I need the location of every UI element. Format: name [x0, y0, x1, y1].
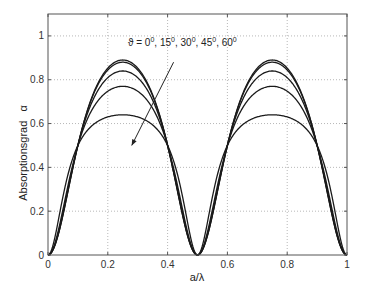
y-tick-label: 1	[38, 30, 44, 41]
y-tick-label: 0	[38, 250, 44, 261]
x-tick-label: 0.6	[220, 259, 234, 270]
x-tick-label: 0.8	[280, 259, 294, 270]
y-tick-label: 0.2	[30, 206, 44, 217]
y-tick-label: 0.4	[30, 162, 44, 173]
x-tick-label: 1	[344, 259, 350, 270]
x-axis-label: a/λ	[190, 271, 205, 283]
y-tick-label: 0.6	[30, 118, 44, 129]
x-tick-label: 0.4	[161, 259, 175, 270]
x-tick-label: 0.2	[101, 259, 115, 270]
angle-annotation: ϑ = 00, 150, 300, 450, 600	[128, 36, 237, 48]
x-tick-label: 0	[45, 259, 51, 270]
y-axis-label: Absorptionsgrad α	[17, 105, 29, 201]
chart: 00.20.40.60.81 00.20.40.60.81 a/λ Absorp…	[0, 0, 366, 290]
y-tick-label: 0.8	[30, 74, 44, 85]
